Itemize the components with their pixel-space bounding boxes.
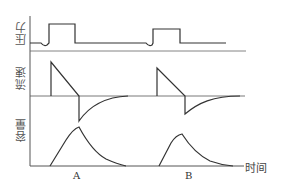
volume-waveform-a (50, 127, 126, 166)
flow-axis-label: 流速 (14, 66, 30, 90)
pressure-axis-label: 压力 (14, 21, 30, 45)
volume-waveform-b (159, 134, 233, 166)
waveform-diagram (0, 0, 283, 189)
case-label-b: B (185, 170, 192, 181)
volume-axis-label: 容量 (14, 118, 30, 142)
flow-waveform-a (51, 62, 128, 121)
time-axis-label: 时间 (245, 159, 267, 175)
pressure-waveform (30, 24, 226, 46)
case-label-a: A (73, 170, 80, 181)
flow-waveform-b (157, 68, 240, 114)
